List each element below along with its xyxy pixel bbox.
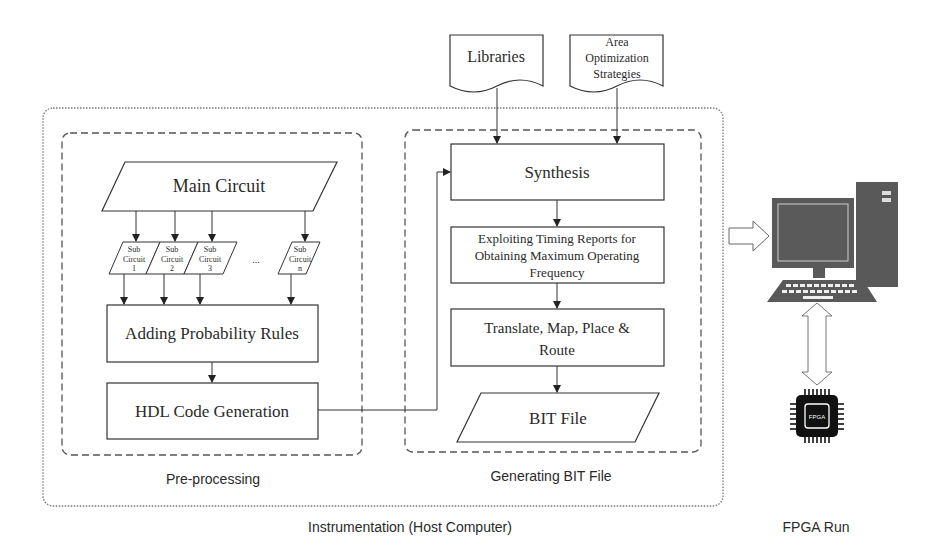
bitgen-label: Generating BIT File (490, 468, 611, 484)
area-optimization-document: Area Optimization Strategies (570, 35, 663, 92)
sub-circuit-1-line-1: Sub (128, 245, 140, 254)
sub-circuit-2-line-1: Sub (166, 245, 178, 254)
timing-line-3: Frequency (530, 265, 585, 280)
sub-circuit-n-line-2: Circuit (289, 255, 312, 264)
timing-reports-node: Exploiting Timing Reports for Obtaining … (451, 227, 664, 283)
hdl-to-synthesis-connector (318, 172, 450, 410)
sub-circuit-3-line-1: Sub (204, 245, 216, 254)
sub-circuit-n-line-1: Sub (294, 245, 306, 254)
fpga-chip-label: FPGA (809, 414, 825, 420)
translate-map-node: Translate, Map, Place & Route (451, 309, 664, 366)
probability-rules-label: Adding Probability Rules (125, 324, 299, 343)
host-to-computer-arrow (729, 221, 769, 251)
sub-circuit-n: Sub Circuit n (278, 242, 320, 274)
hdl-generation-node: HDL Code Generation (107, 383, 318, 439)
fpga-chip-icon: FPGA (790, 389, 844, 443)
libraries-label: Libraries (467, 48, 525, 65)
diagram-canvas: Libraries Area Optimization Strategies M… (0, 0, 933, 552)
sub-circuit-1-line-3: 1 (132, 264, 136, 273)
timing-line-1: Exploiting Timing Reports for (478, 231, 636, 246)
synthesis-node: Synthesis (451, 144, 664, 200)
area-label-line-3: Strategies (593, 67, 641, 81)
main-circuit-label: Main Circuit (173, 176, 266, 196)
sub-circuit-3-line-3: 3 (208, 264, 212, 273)
computer-icon (767, 182, 898, 302)
sub-circuit-1-line-2: Circuit (123, 255, 146, 264)
timing-line-2: Obtaining Maximum Operating (475, 248, 640, 263)
sub-circuit-3-line-2: Circuit (199, 255, 222, 264)
area-label-line-1: Area (605, 35, 629, 49)
main-circuit-node: Main Circuit (102, 162, 337, 211)
translate-line-2: Route (539, 342, 575, 358)
probability-rules-node: Adding Probability Rules (107, 305, 318, 362)
bit-file-node: BIT File (457, 393, 659, 442)
sub-circuit-2-line-3: 2 (170, 264, 174, 273)
libraries-document: Libraries (450, 35, 543, 92)
host-label: Instrumentation (Host Computer) (308, 519, 512, 535)
hdl-generation-label: HDL Code Generation (135, 402, 290, 421)
computer-fpga-bidirectional-arrow (802, 303, 832, 385)
sub-circuit-ellipsis: ... (252, 254, 260, 265)
preprocessing-label: Pre-processing (166, 471, 260, 487)
sub-circuit-2-line-2: Circuit (161, 255, 184, 264)
synthesis-label: Synthesis (524, 163, 589, 182)
bit-file-label: BIT File (529, 409, 587, 428)
fpga-run-label: FPGA Run (783, 519, 850, 535)
sub-circuit-n-line-3: n (298, 264, 302, 273)
area-label-line-2: Optimization (585, 51, 648, 65)
translate-line-1: Translate, Map, Place & (484, 320, 630, 336)
